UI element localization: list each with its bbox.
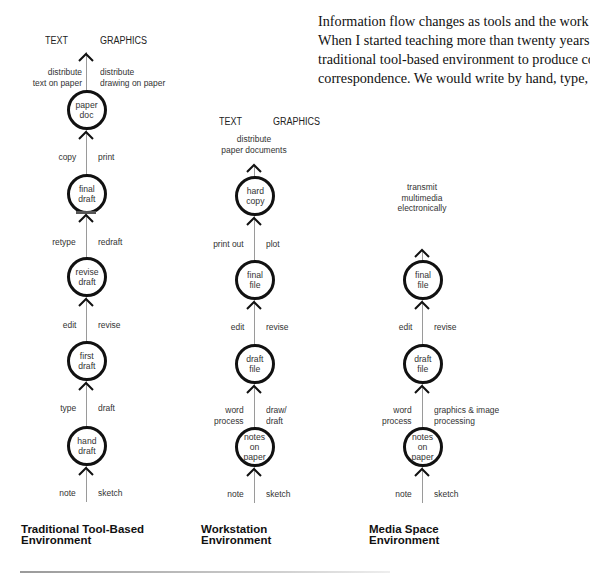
arrow-up-icon [78, 130, 94, 140]
step-left-label: edit [398, 322, 412, 333]
arrow-up-icon [78, 213, 94, 223]
node-first-draft: firstdraft [67, 341, 107, 381]
step-left-label: note [228, 489, 244, 500]
step-right-label: print [98, 152, 114, 163]
step-left-label: retype [53, 237, 76, 248]
step-right-label: draw/ draft [266, 405, 287, 426]
step-left-label: note [60, 488, 76, 499]
step-right-label: redraft [98, 237, 122, 248]
arrow-up-icon [414, 467, 430, 477]
arrow-up-icon [414, 384, 430, 394]
step-left-label: word process [214, 405, 244, 426]
step-right-label: revise [434, 322, 457, 333]
step-right-label: revise [98, 320, 121, 331]
node-final-file: finalfile [403, 260, 443, 300]
step-right-label: graphics & image processing [434, 405, 499, 426]
bottom-divider [20, 571, 390, 573]
header-text: TEXT [219, 116, 242, 127]
step-right-label: draft [98, 403, 115, 414]
arrow-up-icon [246, 467, 262, 477]
step-right-label: sketch [266, 489, 290, 500]
arrow-up-icon [78, 297, 94, 307]
header-text: TEXT [45, 35, 68, 46]
step-right-label: revise [266, 322, 289, 333]
diagram-title: Media Space Environment [369, 524, 439, 546]
node-final-file: finalfile [235, 260, 275, 300]
arrow-up-icon [78, 466, 94, 476]
diagram-title: Workstation Environment [201, 524, 271, 546]
top-left-label: distribute text on paper [33, 67, 82, 88]
top-center-label: distribute paper documents [210, 134, 298, 155]
arrow-up-icon [414, 300, 430, 310]
step-left-label: edit [62, 320, 76, 331]
node-paper-doc: paperdoc [67, 90, 107, 130]
arrow-up-icon [78, 52, 94, 62]
step-left-label: note [396, 489, 412, 500]
arrow-up-icon [246, 384, 262, 394]
step-left-label: print out [213, 239, 244, 250]
step-left-label: edit [230, 322, 244, 333]
node-final-draft: finaldraft [67, 174, 107, 214]
paragraph-line: traditional tool-based environment to pr… [318, 50, 590, 69]
paragraph-line: correspondence. We would write by hand, … [318, 69, 590, 88]
arrow-up-icon [414, 248, 430, 258]
paragraph-line: When I started teaching more than twenty… [318, 31, 590, 50]
header-graphics: GRAPHICS [100, 35, 147, 46]
step-left-label: word process [382, 405, 412, 426]
step-left-label: copy [58, 152, 76, 163]
header-graphics: GRAPHICS [273, 116, 320, 127]
top-right-label: distribute drawing on paper [100, 67, 165, 88]
node-notes-on-paper: notesonpaper [403, 427, 443, 467]
step-right-label: plot [266, 239, 280, 250]
arrow-up-icon [78, 381, 94, 391]
step-right-label: sketch [98, 488, 122, 499]
node-revise-draft: revisedraft [67, 257, 107, 297]
arrow-up-icon [246, 163, 262, 173]
node-draft-file: draftfile [235, 344, 275, 384]
top-center-label: transmit multimedia electronically [378, 182, 466, 214]
node-hand-draft: handdraft [67, 426, 107, 466]
step-left-label: type [60, 403, 76, 414]
arrow-up-icon [246, 300, 262, 310]
paragraph-line: Information flow changes as tools and th… [318, 12, 590, 31]
arrow-up-icon [246, 216, 262, 226]
node-draft-file: draftfile [403, 344, 443, 384]
node-hard-copy: hardcopy [235, 176, 275, 216]
step-right-label: sketch [434, 489, 458, 500]
body-paragraph: Information flow changes as tools and th… [318, 12, 590, 88]
node-notes-on-paper: notesonpaper [235, 427, 275, 467]
diagram-title: Traditional Tool-Based Environment [21, 524, 144, 546]
